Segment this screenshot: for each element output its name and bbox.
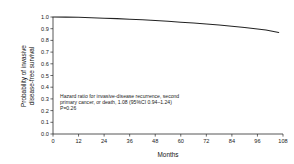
annotation-group: Hazard ratio for invasive-disease recurr… [60, 93, 179, 112]
x-tick-label: 84 [229, 138, 235, 144]
y-axis-title-line2: disease-free survival [28, 47, 35, 106]
hazard-ratio-annotation-line: Hazard ratio for invasive-disease recurr… [60, 93, 179, 99]
y-tick-label: 0.4 [41, 84, 49, 90]
x-tick-label: 36 [127, 138, 133, 144]
y-tick-label: 0.8 [41, 37, 49, 43]
x-tick-label: 48 [152, 138, 158, 144]
x-tick-label: 96 [254, 138, 260, 144]
x-tick-label: 60 [178, 138, 184, 144]
hazard-ratio-annotation-line: P=0.26 [60, 105, 76, 111]
x-tick-label: 108 [278, 138, 287, 144]
y-tick-label: 0.3 [41, 96, 49, 102]
y-tick-label: 0.1 [41, 119, 49, 125]
x-axis-title: Months [158, 151, 179, 158]
survival-curve-line [53, 17, 279, 32]
x-tick-label: 0 [51, 138, 54, 144]
y-tick-label: 0.7 [41, 49, 49, 55]
y-tick-label: 1.0 [41, 14, 49, 20]
y-tick-label: 0.5 [41, 73, 49, 79]
survival-curve-group [53, 17, 279, 32]
y-tick-label: 0.9 [41, 26, 49, 32]
x-tick-label: 12 [75, 138, 81, 144]
x-tick-label: 72 [203, 138, 209, 144]
plot-area: 0.00.10.20.30.40.50.60.70.80.91.0 012243… [0, 0, 294, 164]
y-tick-label: 0.6 [41, 61, 49, 67]
y-axis: 0.00.10.20.30.40.50.60.70.80.91.0 [41, 14, 53, 137]
y-tick-label: 0.0 [41, 131, 49, 137]
x-axis: 01224364860728496108 [51, 134, 287, 144]
y-axis-title-line1: Probability of invasive [20, 45, 28, 107]
hazard-ratio-annotation-line: primary cancer, or death, 1.08 (95%CI 0.… [60, 99, 172, 105]
x-tick-label: 24 [101, 138, 107, 144]
kaplan-meier-chart: 0.00.10.20.30.40.50.60.70.80.91.0 012243… [0, 0, 294, 164]
y-tick-label: 0.2 [41, 108, 49, 114]
